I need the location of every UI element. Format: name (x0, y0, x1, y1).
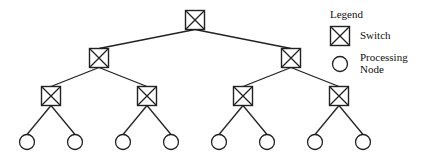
processing-node-icon (116, 135, 131, 150)
processing-node-icon (68, 135, 83, 150)
legend-node-icon (333, 57, 348, 72)
edge-line (27, 106, 51, 135)
processing-node-icon (164, 135, 179, 150)
edge-line (123, 106, 147, 135)
legend-node-label-line1: Processing (360, 51, 408, 63)
edge-line (195, 30, 291, 49)
edge-line (99, 30, 195, 49)
tree-graphic (0, 0, 423, 163)
legend-switch-label: Switch (360, 29, 391, 41)
edge-line (147, 106, 171, 135)
processing-node-icon (260, 135, 275, 150)
processing-node-icon (356, 135, 371, 150)
edge-line (291, 68, 339, 87)
tree-diagram: Legend Switch Processing Node (0, 0, 423, 163)
edge-line (315, 106, 339, 135)
edge-line (243, 68, 291, 87)
edge-line (51, 68, 99, 87)
legend-node-label-line2: Node (360, 63, 384, 75)
processing-node-icon (212, 135, 227, 150)
edge-line (339, 106, 363, 135)
edge-line (99, 68, 147, 87)
edge-line (243, 106, 267, 135)
edge-line (51, 106, 75, 135)
processing-node-icon (308, 135, 323, 150)
edge-line (219, 106, 243, 135)
legend-title: Legend (330, 8, 363, 20)
processing-node-icon (20, 135, 35, 150)
